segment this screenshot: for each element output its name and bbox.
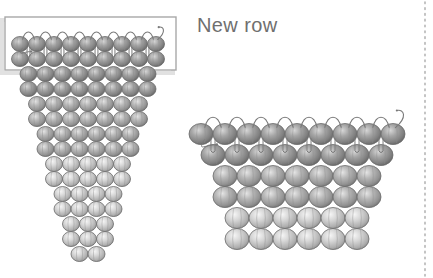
figure-canvas: New row — [0, 0, 433, 278]
new-row-label: New row — [197, 14, 278, 37]
right-bead-structure — [189, 109, 405, 249]
bead-weaving-diagram — [0, 0, 433, 278]
left-bead-structure — [12, 26, 165, 262]
